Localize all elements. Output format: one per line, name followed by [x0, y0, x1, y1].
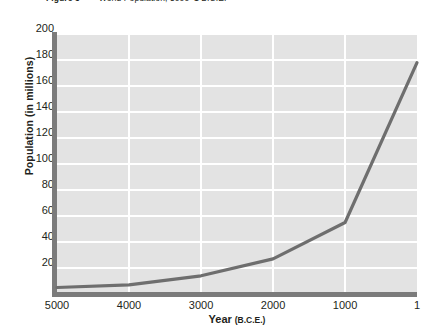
y-axis-tick-label: 120	[18, 126, 54, 138]
y-axis-tick-label: 140	[18, 100, 54, 112]
y-axis-tick-label: 40	[18, 230, 54, 242]
population-line-path	[57, 63, 417, 288]
y-axis-tick-labels: 20406080100120140160180200	[18, 28, 54, 294]
y-axis-tick-label: 80	[18, 178, 54, 190]
population-line-series	[57, 34, 417, 294]
y-axis-tick-label: 100	[18, 152, 54, 164]
y-axis-tick-label: 200	[18, 22, 54, 34]
x-axis-tick-label: 4000	[117, 299, 141, 311]
figure-caption: Figure 3 World Population, 5000–1 B.C.E.	[46, 0, 227, 5]
x-axis-tick-label: 5000	[45, 299, 69, 311]
x-axis-title-main: Year	[209, 313, 232, 325]
y-axis-tick-label: 20	[18, 256, 54, 268]
x-axis-tick-label: 2000	[261, 299, 285, 311]
x-axis-title-sub: (B.C.E.)	[235, 315, 266, 325]
x-axis-tick-label: 3000	[189, 299, 213, 311]
y-axis-tick-label: 60	[18, 204, 54, 216]
x-axis-tick-label: 1	[414, 299, 420, 311]
figure-label: Figure 3	[46, 0, 80, 3]
figure-container: Figure 3 World Population, 5000–1 B.C.E.…	[0, 0, 422, 326]
x-axis-spine	[52, 292, 417, 297]
y-axis-tick-label: 160	[18, 74, 54, 86]
x-axis-title: Year (B.C.E.)	[57, 313, 417, 325]
plot-area	[57, 34, 417, 294]
y-axis-tick-label: 180	[18, 48, 54, 60]
figure-caption-text: World Population, 5000–1 B.C.E.	[99, 0, 227, 3]
x-axis-tick-label: 1000	[333, 299, 357, 311]
